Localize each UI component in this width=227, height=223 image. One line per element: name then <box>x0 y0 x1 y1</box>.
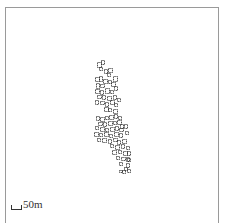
building-footprint <box>120 171 123 173</box>
building-footprint <box>98 139 101 142</box>
building-footprint <box>127 147 130 150</box>
building-footprint <box>103 139 107 143</box>
building-footprint <box>104 80 108 84</box>
building-footprint <box>115 104 118 107</box>
building-footprint <box>95 133 99 137</box>
building-footprint <box>115 115 118 119</box>
building-footprint <box>115 133 119 137</box>
building-footprint <box>96 90 100 94</box>
building-footprint <box>98 63 102 68</box>
building-footprint <box>96 78 100 82</box>
building-footprint <box>114 110 118 114</box>
building-footprint <box>112 83 116 87</box>
building-footprint <box>111 145 114 148</box>
building-footprint <box>113 151 117 155</box>
building-footprint <box>104 123 107 127</box>
building-footprint <box>109 69 113 73</box>
building-footprint <box>110 116 114 120</box>
building-footprint <box>127 164 130 168</box>
building-footprint <box>122 158 126 161</box>
building-footprint <box>108 74 111 77</box>
building-footprint <box>102 61 105 65</box>
building-footprint <box>125 125 128 129</box>
building-footprint <box>97 84 100 89</box>
building-footprint <box>111 91 114 94</box>
building-footprint <box>106 129 109 132</box>
building-footprint <box>125 168 128 171</box>
building-footprint <box>117 157 120 160</box>
building-footprint <box>128 152 131 156</box>
building-footprint <box>115 87 118 91</box>
building-footprint <box>98 96 102 99</box>
building-footprint <box>100 134 103 137</box>
building-footprint <box>114 139 118 142</box>
building-footprint <box>100 77 103 82</box>
building-footprint <box>106 117 109 120</box>
building-footprint <box>116 127 119 131</box>
building-footprint <box>120 134 123 138</box>
building-footprint <box>100 68 103 71</box>
building-footprint <box>105 70 108 74</box>
building-footprint <box>99 123 103 126</box>
scale-bar-line <box>11 205 22 210</box>
building-footprint <box>103 96 106 100</box>
building-footprint <box>105 108 109 112</box>
building-footprint <box>106 103 109 107</box>
building-footprint <box>123 140 127 144</box>
building-footprint <box>109 81 112 84</box>
building-footprint <box>120 129 124 132</box>
building-footprint <box>119 117 122 120</box>
building-footprint <box>110 135 113 138</box>
building-footprint <box>116 146 120 150</box>
building-footprint <box>122 145 125 149</box>
building-footprint <box>111 101 115 105</box>
building-footprint <box>101 91 104 95</box>
building-footprint <box>108 97 112 101</box>
building-footprint <box>114 77 118 82</box>
building-footprint <box>96 101 99 105</box>
building-footprint <box>101 118 105 122</box>
building-footprint <box>111 128 115 132</box>
building-footprints-layer[interactable] <box>0 0 227 223</box>
building-footprint <box>123 171 126 174</box>
building-footprint <box>118 121 122 125</box>
building-footprint <box>96 127 99 130</box>
building-footprint <box>97 117 100 121</box>
building-footprint <box>120 163 123 166</box>
building-footprint <box>101 102 105 105</box>
building-footprint <box>101 128 105 132</box>
building-footprint <box>106 89 110 94</box>
building-footprint <box>105 133 109 137</box>
building-footprint <box>109 140 112 144</box>
building-footprint <box>118 141 121 145</box>
building-footprint <box>109 109 112 112</box>
building-footprint <box>126 132 129 135</box>
building-footprint <box>101 85 105 88</box>
building-footprint <box>124 152 128 156</box>
building-footprint <box>109 122 113 126</box>
building-footprint <box>118 99 121 102</box>
building-footprint <box>128 170 131 173</box>
building-footprint <box>119 151 122 154</box>
building-footprint <box>114 122 117 125</box>
building-footprint <box>114 96 117 100</box>
building-footprint <box>128 159 131 162</box>
scale-bar-label: 50m <box>23 198 43 210</box>
building-footprint <box>121 125 124 129</box>
